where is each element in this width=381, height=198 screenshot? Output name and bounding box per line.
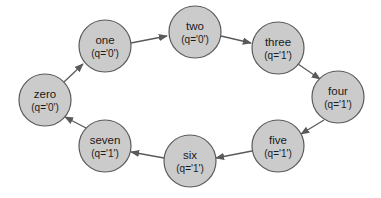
node-two-label: two (186, 20, 204, 32)
node-four: four (q='1') (312, 71, 364, 123)
node-six: six (q='1') (164, 135, 216, 187)
node-zero-label: zero (34, 88, 56, 100)
node-seven-sub: (q='1') (91, 148, 118, 159)
node-two-sub: (q='0') (181, 34, 208, 45)
node-seven-label: seven (90, 134, 121, 146)
edge-one-two (131, 36, 167, 43)
state-diagram: zero (q='0') one (q='0') two (q='0') thr… (0, 0, 381, 198)
node-three-label: three (265, 36, 291, 48)
node-one: one (q='0') (79, 20, 131, 72)
node-two: two (q='0') (169, 6, 221, 58)
node-seven: seven (q='1') (79, 120, 131, 172)
edge-four-five (301, 120, 324, 134)
node-four-sub: (q='1') (324, 99, 351, 110)
node-one-label: one (95, 34, 114, 46)
node-six-sub: (q='1') (176, 163, 203, 174)
node-five-label: five (269, 134, 287, 146)
node-five: five (q='1') (252, 120, 304, 172)
node-one-sub: (q='0') (91, 48, 118, 59)
node-five-sub: (q='1') (264, 148, 291, 159)
edge-zero-one (64, 64, 83, 82)
node-three: three (q='1') (252, 22, 304, 74)
node-six-label: six (183, 149, 197, 161)
node-zero-sub: (q='0') (31, 102, 58, 113)
edge-seven-zero (65, 117, 86, 128)
node-zero: zero (q='0') (19, 74, 71, 126)
edge-five-six (216, 151, 252, 158)
edge-three-four (298, 64, 320, 79)
edge-two-three (221, 36, 251, 43)
node-four-label: four (328, 85, 348, 97)
edge-six-seven (131, 152, 164, 158)
node-three-sub: (q='1') (264, 50, 291, 61)
